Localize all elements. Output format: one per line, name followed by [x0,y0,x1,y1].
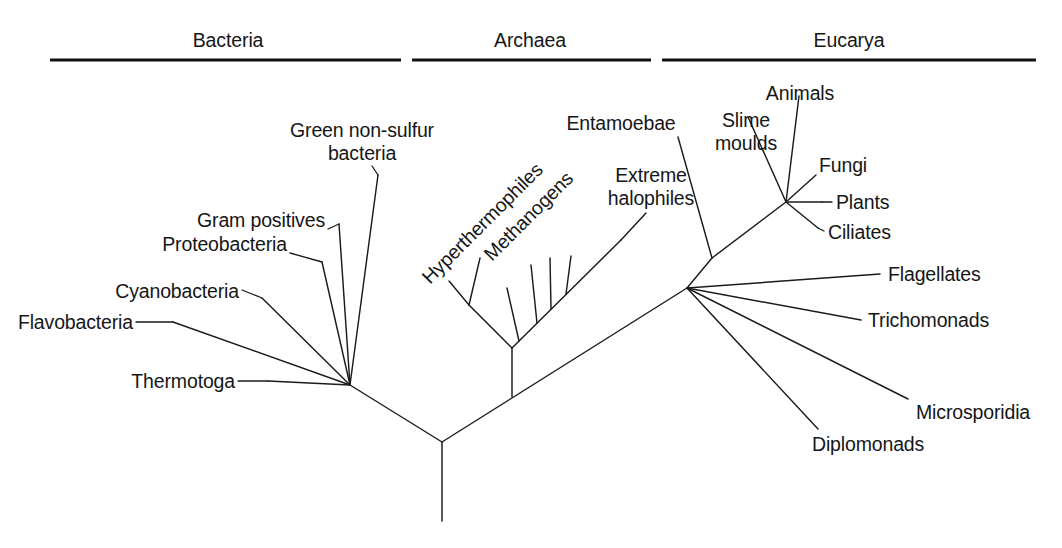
archaea-node-to-hyperthermophile-base [469,305,512,348]
taxon-ciliates: Ciliates [828,221,891,243]
taxon-thermotoga: Thermotoga [131,370,235,392]
eucarya-node-to-inner [687,258,712,288]
taxon-gram-positives-line-0: Gram positives [197,209,325,231]
taxon-slime-moulds-line-0: Slime [722,109,770,131]
taxon-extreme-halophiles: Extremehalophiles [608,164,695,209]
taxon-green-non-sulfur-bacteria-line-1: bacteria [328,142,396,164]
taxon-cyanobacteria: Cyanobacteria [115,280,239,302]
taxon-animals-line-0: Animals [766,82,835,104]
taxon-plants-line-0: Plants [836,191,890,213]
taxon-green-non-sulfur-bacteria: Green non-sulfurbacteria [290,119,435,164]
taxon-diplomonads: Diplomonads [812,433,925,455]
root-to-eucarya-node [442,288,687,442]
taxon-microsporidia-line-0: Microsporidia [916,401,1030,423]
phylogenetic-tree-figure: BacteriaArchaeaEucarya Green non-sulfurb… [0,0,1062,548]
taxon-microsporidia: Microsporidia [916,401,1030,423]
taxon-slime-moulds-line-1: moulds [715,132,777,154]
root-to-bacteria-node [350,385,442,442]
taxon-trichomonads: Trichomonads [868,309,989,331]
hyperthermophile-branch-a [449,281,469,305]
methanogen-branch-a [507,288,519,341]
crown-node-to-fungi [786,175,816,202]
leader-gram-positives [328,224,339,229]
taxon-flagellates: Flagellates [888,263,981,285]
taxon-labels-group: Green non-sulfurbacteriaGram positivesPr… [18,82,1030,455]
leader-proteobacteria [290,253,322,262]
taxon-green-non-sulfur-bacteria-line-0: Green non-sulfur [290,119,435,141]
label-leader-lines-group [136,166,832,381]
crown-node-to-ciliates [786,202,818,228]
taxon-entamoebae: Entamoebae [566,112,675,134]
taxon-trichomonads-line-0: Trichomonads [868,309,989,331]
tree-canvas: BacteriaArchaeaEucarya Green non-sulfurb… [0,0,1062,548]
extreme-halophiles-branch [621,213,646,240]
bacteria-node-to-thermotoga [268,381,350,385]
taxon-proteobacteria: Proteobacteria [162,233,287,255]
eucarya-node-to-microsporidia [687,288,908,399]
taxon-entamoebae-line-0: Entamoebae [566,112,675,134]
taxon-animals: Animals [766,82,835,104]
taxon-extreme-halophiles-line-0: Extreme [615,164,687,186]
taxon-slime-moulds: Slimemoulds [715,109,777,154]
taxon-proteobacteria-line-0: Proteobacteria [162,233,287,255]
domain-archaea-label: Archaea [494,29,566,51]
taxon-flavobacteria-line-0: Flavobacteria [18,311,133,333]
taxon-fungi: Fungi [819,154,867,176]
domain-eucarya-label: Eucarya [814,29,885,51]
leader-green-non-sulfur [372,166,378,175]
taxon-plants: Plants [836,191,890,213]
taxon-thermotoga-line-0: Thermotoga [131,370,235,392]
methanogen-branch-c [550,258,551,309]
methanogen-branch-b [531,265,537,323]
inner-node-to-crown [712,202,786,258]
bacteria-node-to-cyanobacteria [262,298,350,385]
eucarya-node-to-flagellates [687,274,880,288]
hyperthermophile-branch-b [469,258,480,305]
taxon-ciliates-line-0: Ciliates [828,221,891,243]
taxon-cyanobacteria-line-0: Cyanobacteria [115,280,239,302]
domain-bacteria-label: Bacteria [193,29,264,51]
crown-node-to-animals [786,96,799,202]
bacteria-node-to-green-non-sulfur [350,175,378,385]
taxon-flavobacteria: Flavobacteria [18,311,133,333]
leader-cyanobacteria [242,290,262,298]
leader-ciliates [818,228,824,231]
tree-branches-group [173,96,908,521]
taxon-extreme-halophiles-line-1: halophiles [608,187,695,209]
taxon-gram-positives: Gram positives [197,209,325,231]
taxon-fungi-line-0: Fungi [819,154,867,176]
taxon-flagellates-line-0: Flagellates [888,263,981,285]
methanogen-branch-d [566,256,571,294]
taxon-diplomonads-line-0: Diplomonads [812,433,925,455]
domain-labels-group: BacteriaArchaeaEucarya [193,29,885,51]
